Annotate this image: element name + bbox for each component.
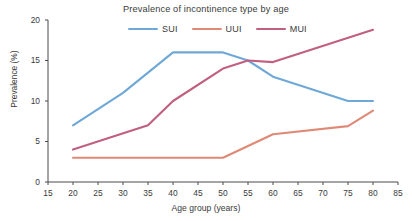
y-tick-label: 10 xyxy=(20,96,40,106)
legend-item-sui: SUI xyxy=(128,24,178,34)
legend-label-mui: MUI xyxy=(290,24,307,34)
series-layer xyxy=(73,30,373,158)
x-tick-label: 75 xyxy=(338,188,358,198)
y-tick-label: 0 xyxy=(20,177,40,187)
x-tick-label: 20 xyxy=(63,188,83,198)
x-tick-label: 25 xyxy=(88,188,108,198)
x-tick-label: 40 xyxy=(163,188,183,198)
legend-item-mui: MUI xyxy=(256,24,307,34)
legend-swatch-mui xyxy=(256,28,286,30)
x-tick-label: 55 xyxy=(238,188,258,198)
legend-label-uui: UUI xyxy=(226,24,242,34)
legend-swatch-uui xyxy=(192,28,222,30)
x-tick-label: 30 xyxy=(113,188,133,198)
x-tick-label: 60 xyxy=(263,188,283,198)
y-tick-label: 15 xyxy=(20,55,40,65)
y-tick-label: 5 xyxy=(20,136,40,146)
x-tick-label: 70 xyxy=(313,188,333,198)
axis-layer xyxy=(45,20,398,185)
x-tick-label: 85 xyxy=(388,188,408,198)
chart-figure: Prevalence of incontinence type by age S… xyxy=(0,0,412,221)
x-tick-label: 45 xyxy=(188,188,208,198)
x-tick-label: 50 xyxy=(213,188,233,198)
series-line-mui xyxy=(73,30,373,150)
x-tick-label: 80 xyxy=(363,188,383,198)
y-axis-title: Prevalence (%) xyxy=(9,39,19,119)
chart-legend: SUI UUI MUI xyxy=(128,24,307,34)
x-tick-label: 15 xyxy=(38,188,58,198)
series-line-sui xyxy=(73,52,373,125)
legend-item-uui: UUI xyxy=(192,24,242,34)
x-tick-label: 35 xyxy=(138,188,158,198)
y-tick-label: 20 xyxy=(20,15,40,25)
x-tick-label: 65 xyxy=(288,188,308,198)
legend-swatch-sui xyxy=(128,28,158,30)
legend-label-sui: SUI xyxy=(162,24,178,34)
x-axis-title: Age group (years) xyxy=(0,203,412,213)
